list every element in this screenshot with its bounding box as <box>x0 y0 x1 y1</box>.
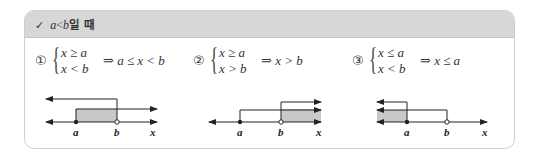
svg-text:x: x <box>481 126 488 138</box>
svg-text:b: b <box>278 126 284 138</box>
number-line-3: a b x <box>377 102 488 138</box>
number-line-2: a b x <box>209 102 322 138</box>
number-line-1: a b x <box>46 99 157 138</box>
svg-text:x: x <box>315 126 322 138</box>
number-lines: a b x a b x a b x <box>0 0 538 160</box>
svg-text:a: a <box>404 126 410 138</box>
svg-text:x: x <box>149 126 156 138</box>
svg-text:b: b <box>114 126 120 138</box>
svg-text:a: a <box>237 126 243 138</box>
svg-text:b: b <box>444 126 450 138</box>
svg-text:a: a <box>73 126 79 138</box>
